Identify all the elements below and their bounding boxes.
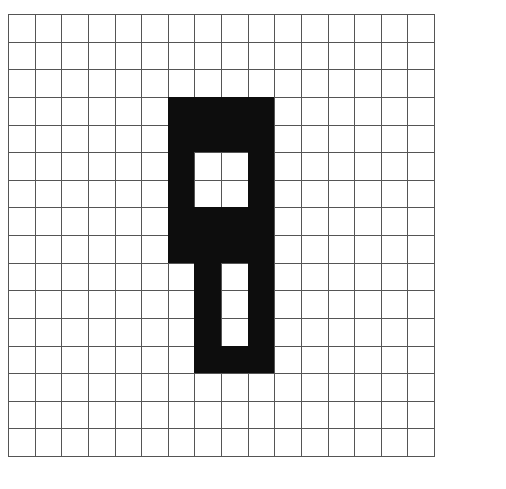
empty-cell xyxy=(354,290,381,318)
empty-cell xyxy=(8,346,35,374)
filled-cell xyxy=(248,97,275,125)
empty-cell xyxy=(354,42,381,70)
empty-cell xyxy=(221,428,248,456)
empty-cell xyxy=(354,207,381,235)
empty-cell xyxy=(8,235,35,263)
empty-cell xyxy=(328,125,355,153)
empty-cell xyxy=(274,69,301,97)
filled-cell xyxy=(221,235,248,263)
empty-cell xyxy=(328,180,355,208)
empty-cell xyxy=(8,290,35,318)
empty-cell xyxy=(221,42,248,70)
filled-cell xyxy=(168,235,195,263)
empty-cell xyxy=(354,346,381,374)
empty-cell xyxy=(407,97,434,125)
empty-cell xyxy=(301,401,328,429)
empty-cell xyxy=(381,290,408,318)
empty-cell xyxy=(115,180,142,208)
empty-cell xyxy=(168,69,195,97)
empty-cell xyxy=(8,97,35,125)
empty-cell xyxy=(115,152,142,180)
empty-cell xyxy=(35,428,62,456)
filled-cell xyxy=(248,125,275,153)
empty-cell xyxy=(88,152,115,180)
empty-cell xyxy=(115,290,142,318)
empty-cell xyxy=(168,373,195,401)
empty-cell xyxy=(88,207,115,235)
filled-cell xyxy=(168,207,195,235)
empty-cell xyxy=(301,97,328,125)
empty-cell xyxy=(407,14,434,42)
empty-cell xyxy=(328,152,355,180)
empty-cell xyxy=(141,401,168,429)
empty-cell xyxy=(35,42,62,70)
empty-cell xyxy=(8,69,35,97)
empty-cell xyxy=(221,401,248,429)
empty-cell xyxy=(88,346,115,374)
empty-cell xyxy=(168,42,195,70)
empty-cell xyxy=(221,180,248,208)
empty-cell xyxy=(274,346,301,374)
empty-cell xyxy=(354,152,381,180)
empty-cell xyxy=(328,401,355,429)
empty-cell xyxy=(35,346,62,374)
empty-cell xyxy=(141,235,168,263)
empty-cell xyxy=(168,263,195,291)
empty-cell xyxy=(381,373,408,401)
empty-cell xyxy=(35,235,62,263)
pixel-grid xyxy=(8,14,435,457)
empty-cell xyxy=(194,401,221,429)
empty-cell xyxy=(407,428,434,456)
empty-cell xyxy=(194,373,221,401)
filled-cell xyxy=(248,180,275,208)
empty-cell xyxy=(328,346,355,374)
empty-cell xyxy=(194,180,221,208)
filled-cell xyxy=(194,97,221,125)
filled-cell xyxy=(248,207,275,235)
empty-cell xyxy=(328,207,355,235)
empty-cell xyxy=(381,235,408,263)
empty-cell xyxy=(407,235,434,263)
empty-cell xyxy=(328,290,355,318)
empty-cell xyxy=(61,152,88,180)
empty-cell xyxy=(354,428,381,456)
empty-cell xyxy=(328,97,355,125)
empty-cell xyxy=(221,290,248,318)
filled-cell xyxy=(194,125,221,153)
empty-cell xyxy=(168,346,195,374)
empty-cell xyxy=(381,180,408,208)
empty-cell xyxy=(61,14,88,42)
empty-cell xyxy=(407,373,434,401)
empty-cell xyxy=(141,69,168,97)
empty-cell xyxy=(61,263,88,291)
empty-cell xyxy=(274,14,301,42)
filled-cell xyxy=(248,152,275,180)
empty-cell xyxy=(301,125,328,153)
empty-cell xyxy=(301,42,328,70)
empty-cell xyxy=(194,428,221,456)
empty-cell xyxy=(381,346,408,374)
empty-cell xyxy=(274,152,301,180)
empty-cell xyxy=(407,401,434,429)
empty-cell xyxy=(8,318,35,346)
empty-cell xyxy=(88,318,115,346)
empty-cell xyxy=(381,401,408,429)
empty-cell xyxy=(301,14,328,42)
empty-cell xyxy=(88,428,115,456)
empty-cell xyxy=(141,14,168,42)
empty-cell xyxy=(141,373,168,401)
empty-cell xyxy=(194,152,221,180)
empty-cell xyxy=(381,69,408,97)
empty-cell xyxy=(274,318,301,346)
empty-cell xyxy=(115,97,142,125)
empty-cell xyxy=(328,14,355,42)
empty-cell xyxy=(141,152,168,180)
empty-cell xyxy=(35,207,62,235)
empty-cell xyxy=(168,318,195,346)
empty-cell xyxy=(301,263,328,291)
empty-cell xyxy=(115,401,142,429)
empty-cell xyxy=(88,125,115,153)
empty-cell xyxy=(35,152,62,180)
empty-cell xyxy=(115,42,142,70)
empty-cell xyxy=(407,263,434,291)
